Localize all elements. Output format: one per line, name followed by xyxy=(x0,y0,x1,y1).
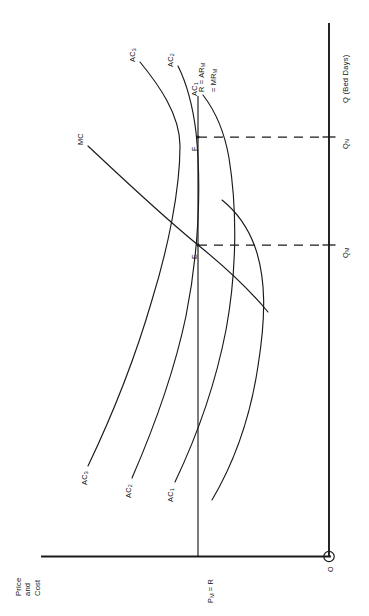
marker-point-f xyxy=(197,136,200,139)
curve-label-ac2-bottom-sub: 2 xyxy=(127,484,133,487)
economics-cost-curve-diagram xyxy=(0,0,369,616)
point-label-f: F xyxy=(191,146,200,151)
price-cost-axis-label-line-2: and xyxy=(23,578,32,596)
tick-label-q-m: QM xyxy=(341,248,351,258)
curve-label-ac2-bottom: AC2 xyxy=(124,484,134,498)
curve-label-ac1-top-base: AC xyxy=(190,85,199,96)
quantity-axis-label: Q (Bed Days) xyxy=(341,55,350,103)
revenue-line-label-2-sub: M xyxy=(212,69,218,73)
revenue-line-label-2-base: = MR xyxy=(209,73,218,92)
curve-label-ac2-top-base: AC xyxy=(166,56,175,67)
price-cost-axis-label-line-3: Cost xyxy=(33,578,42,596)
curve-label-mc-top: MC xyxy=(76,133,85,145)
curve-ac3 xyxy=(88,62,180,466)
tick-label-q-n-base: Q xyxy=(341,143,350,149)
curve-label-ac2-top-sub: 2 xyxy=(169,53,175,56)
tick-label-q-m-sub: M xyxy=(344,248,350,252)
curve-label-ac1-bottom-base: AC xyxy=(166,491,175,502)
revenue-line-label-2: = MRM xyxy=(209,69,219,92)
curve-label-ac2-bottom-base: AC xyxy=(124,487,133,498)
curve-label-ac1-top: AC1 xyxy=(190,82,200,96)
revenue-line-label-1-sub: M xyxy=(200,63,206,67)
curve-label-ac3-bottom: AC3 xyxy=(80,471,90,485)
price-cost-axis-label-line-1: Price xyxy=(14,578,23,596)
price-line-label-sub: M xyxy=(209,593,215,597)
point-label-e: E xyxy=(191,254,200,259)
curve-label-ac3-bottom-sub: 3 xyxy=(83,471,89,474)
curve-label-ac1-top-sub: 1 xyxy=(193,82,199,85)
origin-label: O xyxy=(327,566,336,572)
curve-ac1 xyxy=(175,95,235,482)
curve-label-ac3-top: AC3 xyxy=(128,48,138,62)
curve-ac2 xyxy=(132,66,199,478)
price-line-label-suffix: = R xyxy=(206,579,215,594)
tick-label-q-m-base: Q xyxy=(341,252,350,258)
curve-label-ac3-top-sub: 3 xyxy=(131,48,137,51)
curve-mc xyxy=(88,146,268,312)
curve-label-ac1-bottom-sub: 1 xyxy=(169,488,175,491)
price-line-label-base: P xyxy=(206,598,215,603)
curve-label-ac1-bottom: AC1 xyxy=(166,488,176,502)
price-cost-axis-label: Price and Cost xyxy=(14,578,42,596)
tick-label-q-n: QN xyxy=(341,139,351,149)
curve-label-ac3-bottom-base: AC xyxy=(80,474,89,485)
curve-label-ac3-top-base: AC xyxy=(128,51,137,62)
price-line-label: PM = R xyxy=(206,579,216,603)
curve-label-ac2-top: AC2 xyxy=(166,53,176,67)
marker-point-e xyxy=(197,244,200,247)
tick-label-q-n-sub: N xyxy=(344,139,350,143)
